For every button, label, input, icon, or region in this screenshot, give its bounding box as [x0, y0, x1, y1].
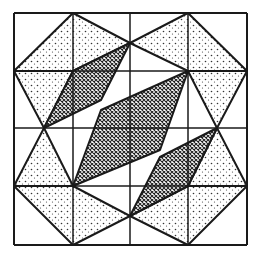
quilt-diagram: [0, 0, 253, 258]
bottom-left-kite: [14, 186, 130, 245]
bottom-left-triangle: [14, 128, 73, 186]
top-right-triangle: [188, 71, 247, 128]
